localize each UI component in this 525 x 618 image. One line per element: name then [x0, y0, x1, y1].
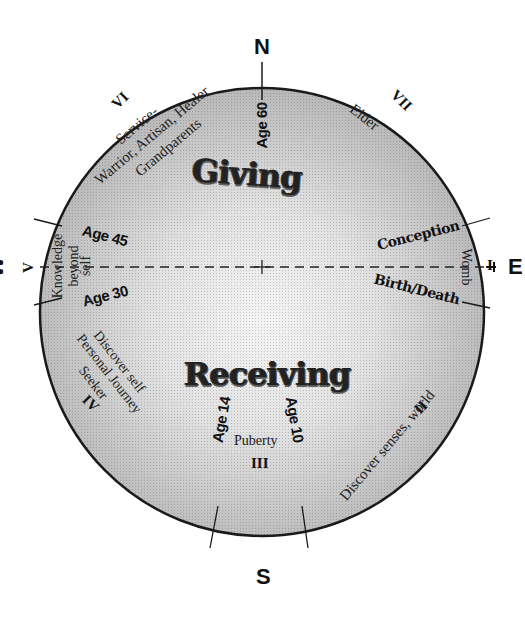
giving-label: Giving [191, 154, 303, 194]
wheel-graphic [0, 0, 525, 618]
compass-north: N [254, 36, 270, 58]
stage-label-puberty: Puberty [234, 434, 278, 448]
compass-west: W [0, 257, 7, 278]
stage-numeral-iii: III [251, 456, 269, 471]
stage-numeral-i: I [487, 258, 493, 273]
stage-label-knowledge: Knowledge [51, 234, 65, 299]
medicine-wheel-diagram: N S E W I II III IV V VI VII Womb Discov… [0, 0, 525, 618]
stage-label-womb: Womb [459, 249, 473, 286]
age-60-label: Age 60 [254, 102, 269, 148]
compass-south: S [256, 566, 271, 588]
stage-label-self: self [79, 256, 93, 276]
compass-east: E [508, 256, 523, 278]
receiving-label: Receiving [184, 358, 350, 390]
stage-numeral-v: V [21, 262, 36, 273]
